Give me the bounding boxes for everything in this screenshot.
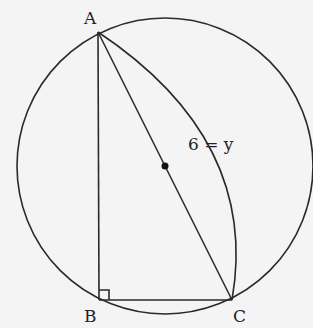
segment-ab [98, 32, 99, 300]
arc-label: 6 = y [188, 134, 234, 154]
label-b: B [84, 306, 97, 326]
label-a: A [83, 8, 97, 28]
label-c: C [233, 306, 246, 326]
center-point [162, 163, 169, 170]
geometry-diagram: A B C 6 = y [0, 0, 313, 328]
